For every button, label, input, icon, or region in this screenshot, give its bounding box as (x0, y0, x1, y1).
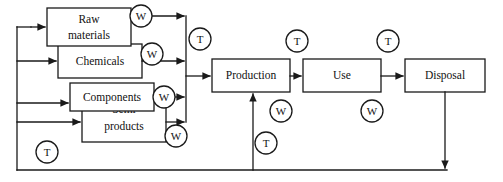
marker-w-raw-materials: W (130, 5, 152, 27)
t-materials-input-label: T (197, 33, 204, 45)
t-return-left-label: T (44, 146, 51, 158)
semi-products-label-2: products (104, 120, 144, 133)
w-components-label: W (159, 91, 170, 103)
use-label: Use (333, 69, 351, 81)
marker-t-return-left: T (36, 141, 58, 163)
box-disposal: Disposal (405, 59, 485, 92)
t-recycling-loop-label: T (263, 137, 270, 149)
w-semi-products-label: W (171, 130, 182, 142)
marker-t-disposal-input: T (377, 30, 399, 52)
marker-t-use-input: T (286, 30, 308, 52)
box-use: Use (303, 59, 381, 92)
box-raw-materials: Raw materials (47, 8, 131, 46)
w-use-label: W (367, 105, 378, 117)
w-chemicals-label: W (147, 48, 158, 60)
marker-t-materials-input: T (189, 28, 211, 50)
raw-materials-label-1: Raw (78, 13, 100, 25)
marker-w-components: W (153, 86, 175, 108)
t-use-input-label: T (294, 35, 301, 47)
marker-w-use: W (361, 100, 383, 122)
w-production-label: W (276, 105, 287, 117)
raw-materials-label-2: materials (68, 29, 111, 41)
production-label: Production (226, 69, 277, 81)
components-label: Components (83, 91, 142, 104)
disposal-label: Disposal (425, 69, 465, 82)
t-disposal-input-label: T (385, 35, 392, 47)
flow-diagram-canvas: Semi products Components Chemicals Raw m… (0, 0, 503, 182)
box-production: Production (212, 59, 290, 92)
w-raw-materials-label: W (136, 10, 147, 22)
marker-w-semi-products: W (165, 125, 187, 147)
box-components: Components (70, 83, 154, 111)
marker-w-chemicals: W (141, 43, 163, 65)
flow-diagram: Semi products Components Chemicals Raw m… (0, 0, 503, 182)
marker-t-recycling-loop: T (255, 132, 277, 154)
chemicals-label: Chemicals (76, 55, 125, 67)
marker-w-production: W (270, 100, 292, 122)
box-chemicals: Chemicals (58, 44, 142, 78)
